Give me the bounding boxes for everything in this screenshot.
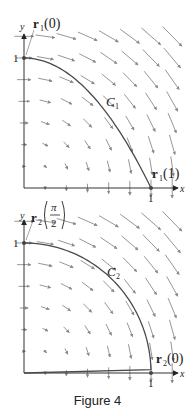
panel-2: y x 1 1 r 2 π 2 C 2 r 2 (0)	[13, 201, 185, 389]
svg-text:1: 1	[115, 102, 119, 111]
svg-text:r: r	[31, 210, 37, 225]
start-label-2: r 2 π 2	[31, 201, 65, 229]
field-arrow	[124, 94, 135, 108]
svg-text:(1): (1)	[163, 166, 180, 182]
svg-text:2: 2	[51, 217, 57, 229]
field-arrow	[165, 70, 179, 90]
field-arrow	[78, 217, 97, 225]
field-arrow	[36, 35, 55, 38]
field-arrow	[128, 344, 131, 358]
end-label-2: r 2 (0)	[156, 351, 184, 368]
field-arrow	[57, 218, 76, 224]
field-arrow	[61, 283, 72, 289]
field-arrow	[141, 213, 160, 230]
field-arrow	[62, 120, 70, 126]
end-label-1: r 1 (1)	[152, 166, 180, 183]
field-arrow	[107, 161, 110, 172]
x-axis-label-1: x	[179, 183, 185, 194]
field-arrow	[81, 75, 95, 83]
field-arrow	[59, 262, 73, 268]
field-arrow	[103, 281, 114, 292]
field-arrow	[41, 122, 49, 125]
field-arrow	[143, 50, 160, 67]
field-arrow	[41, 307, 49, 310]
field-arrow	[126, 116, 134, 130]
field-arrow	[105, 302, 113, 313]
field-arrow	[64, 327, 70, 333]
field-arrow	[169, 135, 175, 155]
field-arrow	[99, 216, 118, 227]
field-arrow	[167, 91, 178, 111]
field-arrow	[65, 349, 68, 355]
field-arrow	[123, 73, 137, 87]
field-arrow	[148, 321, 154, 338]
field-arrow	[82, 282, 93, 290]
svg-text:2: 2	[116, 272, 120, 281]
field-arrow	[107, 346, 110, 357]
field-arrow	[141, 28, 160, 45]
field-arrow	[99, 31, 118, 42]
field-arrow	[144, 256, 158, 273]
svg-text:C: C	[106, 94, 115, 109]
field-arrow	[106, 324, 112, 335]
field-arrow	[146, 93, 157, 110]
curve-label-c1: C 1	[106, 94, 119, 111]
field-arrow	[82, 97, 93, 105]
field-arrow	[147, 300, 155, 317]
field-arrow	[38, 263, 52, 266]
field-arrow	[37, 57, 54, 60]
field-arrow	[79, 54, 96, 62]
field-arrow	[143, 235, 160, 252]
field-arrow	[44, 165, 47, 168]
field-arrow	[58, 55, 75, 61]
field-arrow	[106, 139, 112, 150]
svg-text:r: r	[156, 351, 162, 366]
field-arrow	[144, 71, 158, 88]
field-arrow	[148, 136, 154, 153]
field-arrow	[85, 140, 91, 148]
svg-text:r: r	[33, 16, 39, 31]
svg-text:C: C	[107, 264, 116, 279]
field-arrow	[147, 115, 155, 132]
field-arrow	[86, 162, 89, 170]
field-arrow	[124, 279, 135, 293]
field-arrow	[122, 51, 139, 65]
y-tick-2: 1	[13, 237, 19, 249]
field-arrow	[120, 29, 139, 43]
x-tick-1: 1	[148, 192, 154, 204]
field-arrow	[62, 305, 70, 311]
field-arrow	[78, 32, 97, 40]
field-arrow	[57, 33, 76, 39]
field-arrow	[163, 26, 182, 46]
svg-text:(0): (0)	[167, 351, 184, 367]
field-arrow	[128, 159, 131, 173]
field-arrow	[167, 276, 178, 296]
field-arrow	[79, 239, 96, 247]
field-arrow	[44, 350, 47, 353]
field-arrow	[164, 48, 181, 68]
field-arrow	[42, 328, 48, 331]
field-arrow	[58, 240, 75, 246]
field-arrow	[168, 113, 176, 133]
field-arrow	[127, 323, 133, 337]
panel-1: y x 1 1 r 1 (0) C 1 r 1 (1)	[13, 16, 185, 204]
field-arrow	[168, 298, 176, 318]
field-arrow	[86, 347, 89, 355]
x-axis-label-2: x	[179, 368, 185, 379]
start-label-1: r 1 (0)	[33, 16, 61, 33]
field-arrow	[146, 278, 157, 295]
field-arrow	[85, 325, 91, 333]
field-arrow	[81, 260, 95, 268]
field-arrow	[64, 142, 70, 148]
field-arrow	[40, 100, 51, 103]
end-point-1	[149, 186, 153, 190]
svg-text:π: π	[51, 201, 57, 213]
field-arrow	[100, 52, 117, 63]
field-arrow	[59, 77, 73, 83]
start-point-2	[22, 241, 26, 245]
field-arrow	[42, 143, 48, 146]
y-axis-label-1: y	[19, 21, 25, 32]
y-axis-label-2: y	[19, 210, 25, 221]
field-arrow	[83, 304, 91, 312]
field-arrow	[65, 164, 68, 170]
